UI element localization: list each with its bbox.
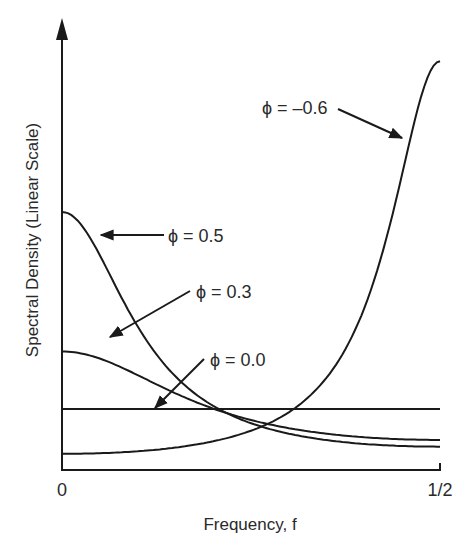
x-axis-title: Frequency, f xyxy=(203,515,297,534)
y-axis-arrow-icon xyxy=(56,18,68,40)
label-phi-0-5: ϕ = 0.5 xyxy=(168,226,224,246)
curve-phi-neg-0-6 xyxy=(62,61,440,454)
y-axis-title: Spectral Density (Linear Scale) xyxy=(23,123,42,357)
spectral-density-chart: ϕ = –0.6 ϕ = 0.5 ϕ = 0.3 ϕ = 0.0 0 1/2 F… xyxy=(0,0,471,558)
label-phi-neg-0-6: ϕ = –0.6 xyxy=(262,98,328,118)
x-tick-0: 0 xyxy=(57,480,67,500)
label-phi-0-3: ϕ = 0.3 xyxy=(196,282,252,302)
label-phi-0-0: ϕ = 0.0 xyxy=(210,350,266,370)
x-tick-half: 1/2 xyxy=(427,480,452,500)
arrow-phi-neg-0-6 xyxy=(338,109,402,138)
arrow-phi-0-0 xyxy=(155,359,204,408)
